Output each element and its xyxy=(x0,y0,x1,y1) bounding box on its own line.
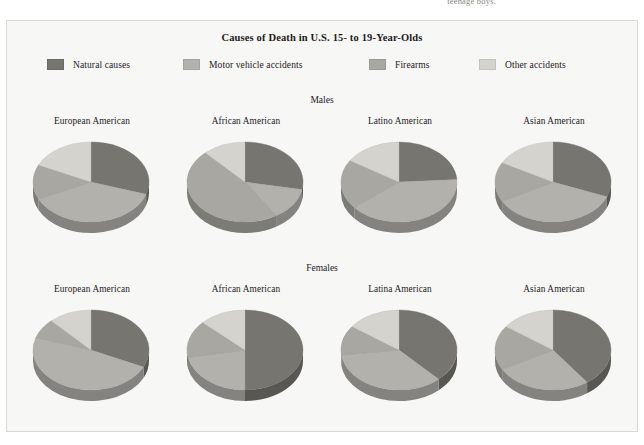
pie-chart-cell: European American xyxy=(15,284,169,416)
pie-chart xyxy=(331,130,469,248)
figure-panel: Causes of Death in U.S. 15- to 19-Year-O… xyxy=(6,20,638,432)
pie-top-face xyxy=(187,310,303,390)
legend-item-label: Natural causes xyxy=(73,60,130,70)
pie-chart-cell: African American xyxy=(169,284,323,416)
legend-swatch-icon xyxy=(479,59,496,70)
pie-row-females: European AmericanAfrican AmericanLatina … xyxy=(15,284,631,416)
legend-item-firearms: Firearms xyxy=(369,59,479,70)
pie-top-face xyxy=(495,142,611,222)
legend-item-label: Motor vehicle accidents xyxy=(209,60,303,70)
legend-swatch-icon xyxy=(369,59,386,70)
pie-chart-cell: Latina American xyxy=(323,284,477,416)
legend-item-natural-causes: Natural causes xyxy=(47,59,183,70)
pie-chart-cell: Latino American xyxy=(323,116,477,248)
legend-item-motor-vehicle-accidents: Motor vehicle accidents xyxy=(183,59,369,70)
pie-row-males: European AmericanAfrican AmericanLatino … xyxy=(15,116,631,248)
pie-top-face xyxy=(187,142,303,222)
legend-swatch-icon xyxy=(47,59,64,70)
pie-chart-caption: Latina American xyxy=(368,284,432,294)
figure-title: Causes of Death in U.S. 15- to 19-Year-O… xyxy=(7,32,637,43)
pie-slice xyxy=(245,142,303,189)
pie-chart-caption: African American xyxy=(212,284,280,294)
legend-item-other-accidents: Other accidents xyxy=(479,59,599,70)
pie-chart xyxy=(177,298,315,416)
pie-top-face xyxy=(341,310,457,390)
pie-chart-caption: African American xyxy=(212,116,280,126)
pie-chart xyxy=(331,298,469,416)
pie-chart-caption: Latino American xyxy=(368,116,432,126)
section-label-females: Females xyxy=(7,263,637,273)
pie-chart xyxy=(23,298,161,416)
pie-chart-cell: Asian American xyxy=(477,284,631,416)
pie-chart-cell: European American xyxy=(15,116,169,248)
pie-chart-cell: African American xyxy=(169,116,323,248)
pie-top-face xyxy=(33,310,149,390)
pie-top-face xyxy=(341,142,457,222)
pie-chart xyxy=(177,130,315,248)
pie-chart xyxy=(485,130,623,248)
pie-chart-cell: Asian American xyxy=(477,116,631,248)
section-label-males: Males xyxy=(7,95,637,105)
pie-slice xyxy=(399,142,457,182)
pie-chart-caption: Asian American xyxy=(523,116,585,126)
pie-chart-caption: European American xyxy=(54,284,130,294)
pie-chart xyxy=(23,130,161,248)
pie-top-face xyxy=(33,142,149,222)
pie-top-face xyxy=(495,310,611,390)
pie-chart-caption: European American xyxy=(54,116,130,126)
pie-chart xyxy=(485,298,623,416)
legend-swatch-icon xyxy=(183,59,200,70)
page-text-fragment: teenage boys. xyxy=(0,0,644,6)
pie-chart-caption: Asian American xyxy=(523,284,585,294)
legend: Natural causes Motor vehicle accidents F… xyxy=(47,59,599,70)
legend-item-label: Firearms xyxy=(395,60,430,70)
legend-item-label: Other accidents xyxy=(505,60,566,70)
